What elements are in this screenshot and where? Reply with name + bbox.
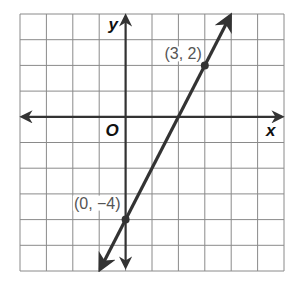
data-point (201, 61, 209, 69)
coordinate-plane: (3, 2)(0, −4) x y O (0, 0, 301, 297)
origin-label: O (106, 121, 119, 140)
point-label: (3, 2) (164, 45, 201, 62)
data-point (122, 216, 130, 224)
data-points: (3, 2)(0, −4) (73, 45, 209, 223)
grid-lines (20, 14, 284, 271)
y-axis-label: y (108, 15, 120, 34)
x-axis-label: x (265, 121, 277, 140)
point-label: (0, −4) (74, 195, 121, 212)
